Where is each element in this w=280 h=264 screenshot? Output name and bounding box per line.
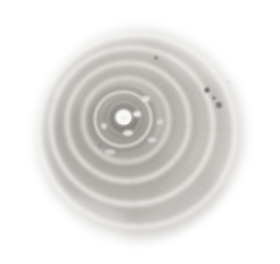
shell-body xyxy=(0,0,280,264)
shell-photograph: Grayscale halftone photograph of a coile… xyxy=(0,0,280,264)
image-canvas: Grayscale halftone photograph of a coile… xyxy=(0,0,280,264)
halftone-grain-light xyxy=(0,0,280,264)
